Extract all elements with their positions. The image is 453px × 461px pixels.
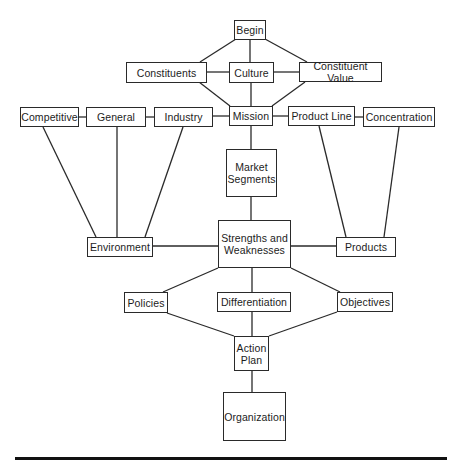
node-label: Action Plan <box>237 342 267 366</box>
edge-begin-constituents <box>200 39 236 62</box>
node-label: Products <box>345 241 387 253</box>
node-objectives: Objectives <box>337 292 393 312</box>
node-action-plan: Action Plan <box>234 336 269 371</box>
edge-objectives-action-plan <box>269 312 337 336</box>
node-constituents: Constituents <box>126 62 207 83</box>
edge-concentration-products <box>384 127 399 237</box>
node-organization: Organization <box>223 392 286 441</box>
node-market-segments: Market Segments <box>226 149 277 197</box>
node-product-line: Product Line <box>288 106 355 126</box>
node-label: Constituents <box>137 67 197 79</box>
node-mission: Mission <box>229 106 273 126</box>
node-environment: Environment <box>87 237 153 257</box>
node-label: General <box>97 111 135 123</box>
node-begin: Begin <box>234 20 266 40</box>
node-policies: Policies <box>124 292 168 313</box>
edge-begin-constituent-value <box>265 39 307 62</box>
node-label: Policies <box>128 297 165 309</box>
node-label: Culture <box>234 67 269 79</box>
node-label: Market Segments <box>227 161 275 185</box>
edge-industry-environment <box>145 127 183 237</box>
node-label: Begin <box>236 24 263 36</box>
edge-strengths-policies <box>163 268 218 292</box>
node-concentration: Concentration <box>363 107 435 127</box>
node-label: Strengths and Weaknesses <box>221 232 288 256</box>
node-label: Constituent Value <box>300 60 381 84</box>
node-culture: Culture <box>229 62 274 83</box>
node-competitive: Competitive <box>20 107 79 127</box>
node-label: Mission <box>233 110 269 122</box>
edge-constituent-value-mission <box>272 82 305 106</box>
node-constituent-value: Constituent Value <box>299 62 382 82</box>
edge-competitive-environment <box>43 127 96 237</box>
node-label: Industry <box>164 111 202 123</box>
edge-strengths-objectives <box>291 268 340 292</box>
node-label: Concentration <box>366 111 433 123</box>
node-products: Products <box>336 237 396 257</box>
edge-product-line-products <box>319 126 346 237</box>
node-label: Organization <box>224 411 285 423</box>
node-label: Competitive <box>21 111 78 123</box>
node-general: General <box>86 107 146 127</box>
node-label: Product Line <box>291 110 351 122</box>
strategy-flow-diagram: Begin Constituents Culture Constituent V… <box>0 0 453 461</box>
edge-policies-action-plan <box>167 313 234 336</box>
node-industry: Industry <box>154 107 213 127</box>
node-label: Differentiation <box>221 296 287 308</box>
node-differentiation: Differentiation <box>217 292 291 312</box>
edge-constituents-mission <box>199 82 230 106</box>
node-strengths-weaknesses: Strengths and Weaknesses <box>218 220 291 268</box>
bottom-divider-rule <box>15 457 447 460</box>
node-label: Objectives <box>340 296 390 308</box>
node-label: Environment <box>90 241 150 253</box>
